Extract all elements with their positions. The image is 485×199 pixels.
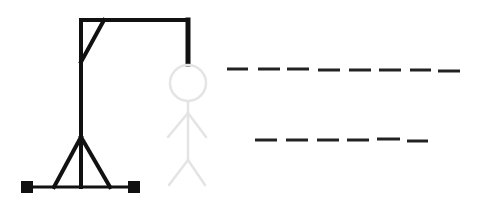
gallows-brace xyxy=(81,20,104,62)
gallows-leg-right xyxy=(81,137,110,187)
hangman-canvas xyxy=(0,0,485,199)
figure-right-arm xyxy=(188,113,206,137)
hangman-board xyxy=(0,0,485,199)
figure-left-arm xyxy=(168,113,188,137)
hangman-figure xyxy=(168,65,206,185)
word-line-2 xyxy=(255,139,428,141)
gallows-leg-left xyxy=(54,137,81,187)
figure-head xyxy=(170,65,206,101)
figure-right-leg xyxy=(188,160,205,185)
gallows xyxy=(21,20,188,193)
gallows-foot-right xyxy=(128,181,140,193)
gallows-foot-left xyxy=(21,181,33,193)
word-line-1 xyxy=(227,69,460,71)
figure-left-leg xyxy=(169,160,188,185)
